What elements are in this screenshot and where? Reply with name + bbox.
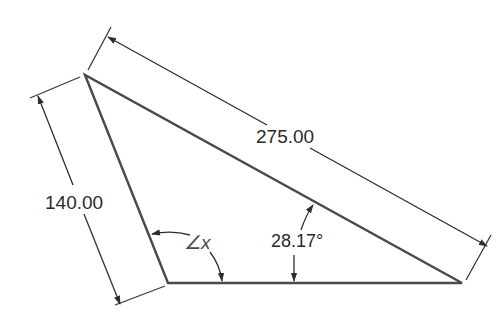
- triangle: [85, 75, 462, 283]
- given-angle-label: 28.17°: [271, 232, 323, 250]
- hypotenuse-length-label: 275.00: [256, 127, 314, 146]
- left-side-length-label: 140.00: [45, 193, 103, 212]
- unknown-angle-label: ∠x: [184, 233, 211, 252]
- triangle-diagram: [0, 0, 504, 323]
- extension-lines-left-side: [30, 77, 165, 305]
- triangle-outline: [85, 75, 462, 283]
